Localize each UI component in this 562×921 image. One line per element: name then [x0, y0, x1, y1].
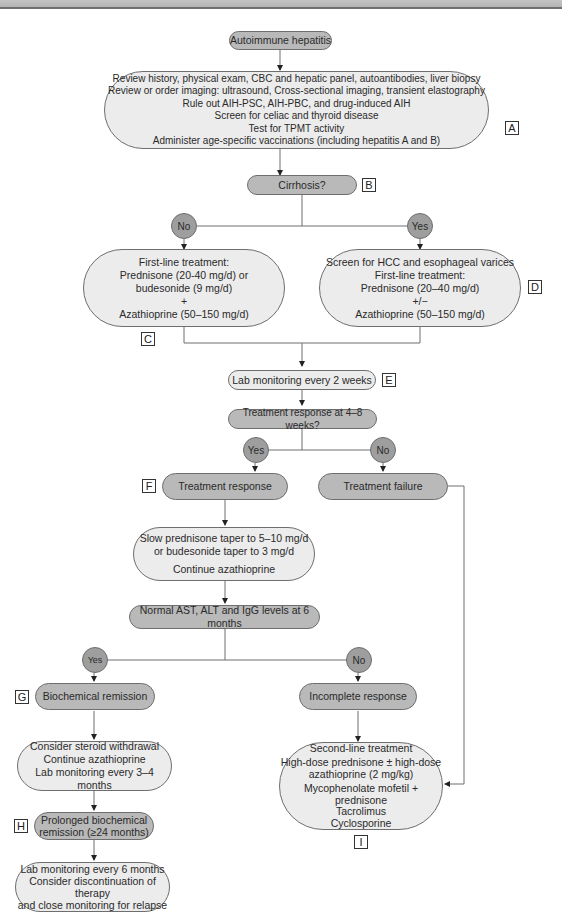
final-line-1: Lab monitoring every 6 months	[20, 863, 164, 875]
start-label: Autoimmune hepatitis	[230, 34, 331, 47]
lab-monitoring-2wk: Lab monitoring every 2 weeks	[228, 370, 376, 390]
normal-labs-label: Normal AST, ALT and IgG levels at 6 mont…	[130, 604, 319, 630]
taper-node: Slow prednisone taper to 5–10 mg/d or bu…	[133, 527, 315, 581]
final-line-3: and close monitoring for relapse	[18, 899, 167, 911]
cirrhosis-decision: Cirrhosis?	[247, 175, 357, 195]
response-no-circle: No	[370, 437, 396, 463]
labs-yes-circle: Yes	[82, 647, 108, 673]
workup-node: Review history, physical exam, CBC and h…	[104, 71, 489, 149]
tx-d-line-3: Prednisone (20–40 mg/d)	[361, 282, 480, 295]
start-node: Autoimmune hepatitis	[229, 31, 332, 50]
second-line-treatment: Second-line treatment High-dose predniso…	[279, 742, 443, 830]
tx-c-line-4: +	[181, 295, 187, 308]
tx-d-line-1: Screen for HCC and esophageal varices	[326, 256, 514, 269]
lab-2wk-label: Lab monitoring every 2 weeks	[232, 374, 372, 387]
tx-d-line-2: First-line treatment:	[375, 269, 465, 282]
taper-line-3: Continue azathioprine	[173, 563, 275, 576]
prolonged-line-2: remission (≥24 months)	[39, 826, 149, 838]
biochemical-remission: Biochemical remission	[35, 683, 155, 710]
normal-labs-question: Normal AST, ALT and IgG levels at 6 mont…	[129, 605, 320, 629]
tag-g: G	[15, 690, 29, 704]
tag-b: B	[362, 178, 376, 192]
taper-line-2: or budesonide taper to 3 mg/d	[154, 545, 294, 558]
taper-line-1: Slow prednisone taper to 5–10 mg/d	[140, 532, 309, 545]
tx-c-line-1: First-line treatment:	[139, 256, 229, 269]
tx-c-line-2: Prednisone (20-40 mg/d) or	[120, 269, 248, 282]
final-monitoring-node: Lab monitoring every 6 months Consider d…	[15, 862, 170, 912]
prolonged-line-1: Prolonged biochemical	[41, 814, 147, 826]
workup-line-1: Review history, physical exam, CBC and h…	[113, 73, 481, 86]
workup-line-3: Rule out AIH-PSC, AIH-PBC, and drug-indu…	[183, 98, 411, 111]
response-yes-circle: Yes	[243, 437, 269, 463]
tag-h: H	[14, 819, 28, 833]
second-line-1: Second-line treatment	[310, 743, 413, 755]
incomplete-label: Incomplete response	[309, 690, 406, 703]
tx-failure-label: Treatment failure	[344, 480, 423, 493]
workup-line-5: Test for TPMT activity	[249, 123, 345, 136]
tx-d-line-4: +/−	[412, 295, 427, 308]
no-cirrhosis-treatment: First-line treatment: Prednisone (20-40 …	[83, 249, 285, 327]
treatment-response: Treatment response	[162, 473, 288, 500]
tx-d-line-5: Azathioprine (50–150 mg/d)	[355, 308, 485, 321]
cirrhosis-label: Cirrhosis?	[278, 179, 325, 192]
biochem-remission-label: Biochemical remission	[43, 690, 147, 703]
response-question: Treatment response at 4–8 weeks?	[228, 409, 377, 429]
tag-e: E	[382, 373, 396, 387]
prolonged-remission: Prolonged biochemical remission (≥24 mon…	[34, 812, 154, 840]
labs-no-circle: No	[346, 647, 372, 673]
tag-c: C	[141, 332, 155, 346]
cirrhosis-treatment: Screen for HCC and esophageal varices Fi…	[319, 249, 521, 327]
withdrawal-line-3: Lab monitoring every 3–4 months	[18, 766, 171, 792]
tag-d: D	[528, 280, 542, 294]
withdrawal-line-1: Consider steroid withdrawal	[30, 740, 159, 753]
cirrhosis-yes-circle: Yes	[407, 213, 433, 239]
response-q-label: Treatment response at 4–8 weeks?	[229, 406, 376, 432]
second-line-6: Cyclosporine	[331, 818, 392, 830]
tx-c-line-5: Azathioprine (50–150 mg/d)	[119, 308, 249, 321]
tag-a: A	[505, 121, 519, 135]
tx-response-label: Treatment response	[178, 480, 272, 493]
tx-c-line-3: budesonide (9 mg/d)	[136, 282, 232, 295]
steroid-withdrawal-node: Consider steroid withdrawal Continue aza…	[17, 741, 172, 791]
incomplete-response: Incomplete response	[299, 683, 417, 710]
treatment-failure: Treatment failure	[318, 473, 448, 500]
tag-f: F	[142, 479, 156, 493]
workup-line-4: Screen for celiac and thyroid disease	[215, 110, 379, 123]
tag-i: I	[354, 835, 368, 849]
withdrawal-line-2: Continue azathioprine	[43, 753, 145, 766]
final-line-2: Consider discontinuation of therapy	[16, 875, 169, 899]
cirrhosis-no-circle: No	[171, 213, 197, 239]
second-line-3: azathioprine (2 mg/kg)	[309, 769, 413, 781]
second-line-5: Tacrolimus	[336, 806, 386, 818]
second-line-4: Mycophenolate mofetil + prednisone	[280, 783, 442, 806]
workup-line-6: Administer age-specific vaccinations (in…	[153, 135, 440, 148]
workup-line-2: Review or order imaging: ultrasound, Cro…	[108, 85, 485, 98]
